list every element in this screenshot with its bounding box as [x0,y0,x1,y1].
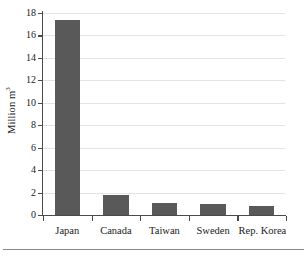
footer-divider [3,249,304,250]
y-tick-label-0: 0 [14,210,36,220]
x-label-canada: Canada [92,224,141,237]
y-tick-label-18: 18 [14,8,36,18]
y-tick-label-8: 8 [14,120,36,130]
y-tick-label-10: 10 [14,98,36,108]
bar-sweden[interactable] [200,204,225,215]
y-tick-label-box-18: 18 [14,8,36,18]
x-label-japan: Japan [43,224,92,237]
y-tick-label-14: 14 [14,53,36,63]
x-tick-3 [189,216,190,221]
bar-canada[interactable] [103,195,128,215]
bar-rep-korea[interactable] [249,206,274,215]
y-tick-label-6: 6 [14,143,36,153]
bar-japan[interactable] [55,20,80,215]
y-tick-label-4: 4 [14,165,36,175]
x-tick-1 [92,216,93,221]
y-tick-label-2: 2 [14,188,36,198]
y-tick-label-box-10: 10 [14,98,36,108]
y-tick-label-box-6: 6 [14,143,36,153]
x-tick-0 [43,216,44,221]
bars-group [43,13,286,215]
y-tick-label-box-8: 8 [14,120,36,130]
y-tick-label-box-2: 2 [14,188,36,198]
y-axis-title-exponent: 3 [4,87,12,91]
y-tick-label-12: 12 [14,75,36,85]
y-tick-label-box-4: 4 [14,165,36,175]
bar-chart-figure: Million m3 18 16 14 12 10 8 6 [0,0,307,262]
bar-taiwan[interactable] [152,203,177,215]
x-label-sweden: Sweden [189,224,238,237]
x-tick-4 [237,216,238,221]
y-tick-label-16: 16 [14,30,36,40]
y-tick-label-box-12: 12 [14,75,36,85]
x-label-taiwan: Taiwan [140,224,189,237]
x-tick-2 [140,216,141,221]
x-label-rep-korea: Rep. Korea [237,224,287,237]
x-tick-5 [286,216,287,221]
y-tick-label-box-16: 16 [14,30,36,40]
y-tick-label-box-14: 14 [14,53,36,63]
y-tick-label-box-0: 0 [14,210,36,220]
x-axis-labels: Japan Canada Taiwan Sweden Rep. Korea [43,224,286,240]
